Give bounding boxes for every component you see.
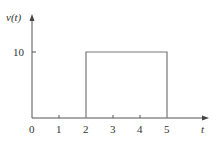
x-tick-label-3: 3 (110, 123, 116, 135)
y-axis-label: v(t) (6, 11, 22, 24)
x-tick-label-5: 5 (164, 123, 170, 135)
y-axis (30, 14, 37, 118)
x-tick-label-1: 1 (56, 123, 62, 135)
x-axis-arrow-icon (202, 116, 209, 121)
y-tick-label-10: 10 (13, 46, 25, 58)
x-axis-label: t (201, 123, 205, 135)
y-axis-arrow-icon (30, 14, 35, 21)
pulse-signal (86, 52, 167, 118)
pulse-chart: v(t) 10 0 1 2 3 4 5 t (0, 0, 220, 144)
x-tick-label-4: 4 (137, 123, 143, 135)
x-axis (32, 115, 209, 121)
x-tick-label-2: 2 (83, 123, 89, 135)
x-tick-label-0: 0 (29, 123, 35, 135)
